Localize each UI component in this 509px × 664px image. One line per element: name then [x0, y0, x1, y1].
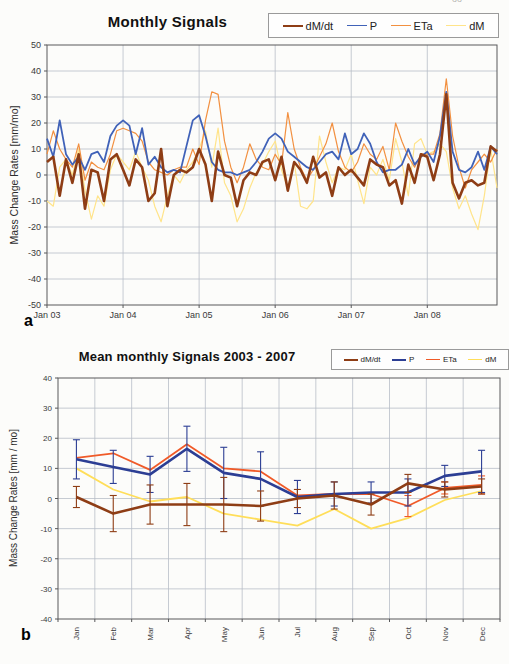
legend-item-dM: dM: [468, 355, 496, 364]
svg-text:Jul: Jul: [293, 627, 302, 637]
svg-text:40: 40: [31, 66, 41, 76]
legend-item-ETa: ETa: [426, 355, 457, 364]
legend-label: ETa: [414, 20, 433, 32]
svg-text:-10: -10: [28, 196, 41, 206]
figure-page: oo Monthly Signals dM/dtPETadM Mass Chan…: [0, 0, 509, 664]
svg-text:-30: -30: [28, 248, 41, 258]
svg-text:-10: -10: [40, 525, 52, 534]
series-line-dM: [47, 128, 497, 229]
svg-text:Jan 08: Jan 08: [414, 310, 441, 320]
gridlines: [58, 378, 500, 619]
x-axis-tick-labels: Jan 03Jan 04Jan 05Jan 06Jan 07Jan 08: [33, 305, 440, 320]
svg-text:-20: -20: [28, 222, 41, 232]
ETa-line-swatch-icon: [391, 25, 411, 26]
svg-text:Jan 06: Jan 06: [262, 310, 289, 320]
page-number-fragment: oo: [452, 0, 492, 4]
P-line-swatch-icon: [392, 359, 406, 361]
svg-text:20: 20: [31, 118, 41, 128]
svg-text:10: 10: [43, 464, 52, 473]
svg-text:Oct: Oct: [404, 626, 413, 639]
legend-label: P: [409, 355, 414, 364]
dM-line-swatch-icon: [446, 25, 466, 26]
chart-a-legend: dM/dtPETadM: [268, 13, 499, 38]
legend-item-dMdt: dM/dt: [344, 355, 381, 364]
legend-label: dM/dt: [361, 355, 381, 364]
panel-a-label: a: [24, 312, 33, 330]
svg-text:Jan 04: Jan 04: [110, 310, 137, 320]
svg-text:30: 30: [31, 92, 41, 102]
gridlines: [47, 45, 497, 305]
chart-a-title: Monthly Signals: [50, 13, 285, 30]
y-axis-tick-labels: -40-30-20-10010203040: [40, 374, 58, 624]
legend-item-dM: dM: [446, 20, 484, 32]
svg-text:40: 40: [43, 374, 52, 383]
legend-label: dM/dt: [306, 20, 334, 32]
svg-text:-20: -20: [40, 555, 52, 564]
svg-text:-30: -30: [40, 585, 52, 594]
legend-label: P: [370, 20, 377, 32]
legend-item-P: P: [347, 20, 377, 32]
svg-text:Dec: Dec: [478, 627, 487, 641]
svg-text:Mar: Mar: [146, 627, 155, 641]
legend-label: dM: [485, 355, 496, 364]
ETa-line-swatch-icon: [426, 359, 440, 360]
P-line-swatch-icon: [347, 25, 367, 26]
svg-text:-40: -40: [28, 274, 41, 284]
dMdt-line-swatch-icon: [283, 25, 303, 27]
svg-text:May: May: [220, 627, 229, 642]
legend-item-P: P: [392, 355, 414, 364]
panel-b-label: b: [21, 626, 31, 644]
chart-b-title: Mean monthly Signals 2003 - 2007: [62, 349, 312, 364]
svg-text:Jan 07: Jan 07: [338, 310, 365, 320]
chart-a-plot: -50-40-30-20-1001020304050Jan 03Jan 04Ja…: [0, 40, 509, 332]
chart-b-legend: dM/dtPETadM: [331, 349, 509, 370]
dM-line-swatch-icon: [468, 359, 482, 360]
svg-text:30: 30: [43, 404, 52, 413]
svg-text:Feb: Feb: [109, 626, 118, 640]
svg-text:Apr: Apr: [183, 627, 192, 640]
legend-item-ETa: ETa: [391, 20, 433, 32]
svg-text:-40: -40: [40, 615, 52, 624]
svg-text:0: 0: [36, 170, 41, 180]
y-axis-tick-labels: -50-40-30-20-1001020304050: [28, 40, 47, 310]
svg-text:50: 50: [31, 40, 41, 50]
x-axis-tick-labels: JanFebMarAprMayJunJulAugSepOctNovDec: [58, 619, 500, 642]
svg-text:Aug: Aug: [330, 627, 339, 641]
dMdt-line-swatch-icon: [344, 359, 358, 361]
svg-text:Jun: Jun: [257, 627, 266, 640]
svg-text:10: 10: [31, 144, 41, 154]
chart-b-plot: -40-30-20-10010203040JanFebMarAprMayJunJ…: [0, 372, 509, 664]
svg-text:0: 0: [48, 495, 53, 504]
legend-label: dM: [469, 20, 484, 32]
legend-label: ETa: [443, 355, 457, 364]
legend-item-dMdt: dM/dt: [283, 20, 334, 32]
svg-text:20: 20: [43, 434, 52, 443]
svg-text:Nov: Nov: [441, 627, 450, 641]
svg-text:Jan 03: Jan 03: [33, 310, 60, 320]
svg-text:Jan 05: Jan 05: [186, 310, 213, 320]
svg-text:Jan: Jan: [72, 627, 81, 640]
svg-text:Sep: Sep: [367, 626, 376, 641]
svg-text:-50: -50: [28, 300, 41, 310]
series-line-dMdt: [47, 94, 497, 208]
